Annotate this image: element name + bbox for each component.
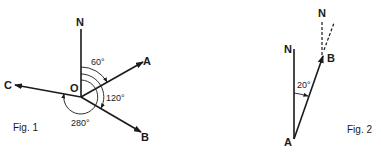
point-b-label: B	[327, 52, 335, 64]
vector-c-label: C	[4, 79, 12, 91]
diagram-canvas: N A B C O 60° 120° 280° Fig. 1 N N B A 2…	[0, 0, 381, 152]
vector-a	[81, 62, 143, 97]
vector-ab	[294, 56, 323, 139]
angle-label-60: 60°	[91, 57, 105, 67]
north-label-b: N	[318, 7, 326, 19]
vector-b-label: B	[141, 131, 149, 143]
vector-a-label: A	[143, 55, 151, 67]
north-label-a: N	[284, 43, 292, 55]
angle-arc-20	[294, 93, 308, 96]
angle-label-280: 280°	[71, 118, 90, 128]
origin-label: O	[70, 82, 79, 94]
figure-1-caption: Fig. 1	[13, 122, 38, 133]
extension-line-dashed	[324, 23, 334, 50]
figure-1: N A B C O 60° 120° 280° Fig. 1	[4, 16, 151, 143]
angle-label-20: 20°	[297, 80, 311, 90]
angle-label-120: 120°	[106, 93, 125, 103]
north-label: N	[76, 16, 84, 28]
point-a-label: A	[284, 136, 292, 148]
figure-2: N N B A 20° Fig. 2	[284, 7, 372, 148]
figure-2-caption: Fig. 2	[347, 124, 372, 135]
